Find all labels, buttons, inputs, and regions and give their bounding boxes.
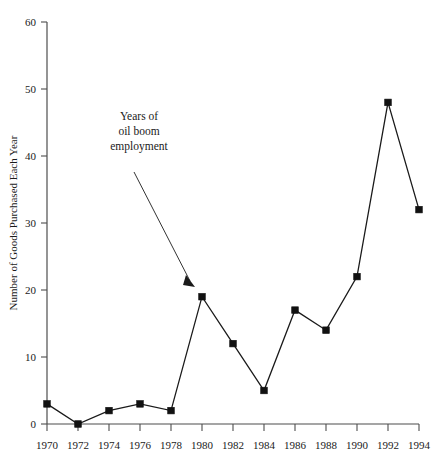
data-point-marker <box>292 307 299 314</box>
y-axis-title: Number of Goods Purchased Each Year <box>7 135 19 310</box>
x-tick-label: 1972 <box>67 439 89 451</box>
annotation-arrow-head <box>183 275 195 287</box>
x-tick-label: 1974 <box>98 439 121 451</box>
y-tick-label: 60 <box>25 16 37 28</box>
oil-boom-annotation: Years of oil boom employment <box>110 110 195 287</box>
data-point-marker <box>323 327 330 334</box>
x-tick-label: 1978 <box>160 439 183 451</box>
y-tick-label: 20 <box>25 284 37 296</box>
annotation-line-1: Years of <box>120 110 158 122</box>
x-tick-label: 1986 <box>284 439 307 451</box>
data-point-marker <box>168 407 175 414</box>
data-point-marker <box>354 273 361 280</box>
data-point-marker <box>106 407 113 414</box>
annotation-arrow-line <box>134 172 190 281</box>
data-point-marker <box>75 421 82 428</box>
x-tick-label: 1982 <box>222 439 244 451</box>
data-point-marker <box>44 401 51 408</box>
y-tick-label: 10 <box>25 351 37 363</box>
y-tick-label: 50 <box>25 83 37 95</box>
x-tick-label: 1988 <box>315 439 338 451</box>
data-point-marker <box>137 401 144 408</box>
data-point-marker <box>261 387 268 394</box>
annotation-line-2: oil boom <box>118 125 159 137</box>
data-series-markers <box>44 99 423 427</box>
data-series-line <box>47 102 419 424</box>
x-axis-tick-labels: 1970 1972 1974 1976 1978 1980 1982 1984 … <box>36 439 431 451</box>
chart-canvas: 0 10 20 30 40 50 60 Number of Goods Purc… <box>0 0 439 473</box>
data-point-marker <box>416 206 423 213</box>
y-tick-label: 40 <box>25 150 37 162</box>
x-tick-label: 1976 <box>129 439 152 451</box>
annotation-line-3: employment <box>110 140 168 153</box>
x-tick-label: 1970 <box>36 439 59 451</box>
x-tick-label: 1984 <box>253 439 276 451</box>
y-tick-label: 30 <box>25 217 37 229</box>
y-axis-ticks <box>41 22 47 424</box>
y-axis-tick-labels: 0 10 20 30 40 50 60 <box>25 16 37 430</box>
x-tick-label: 1994 <box>408 439 431 451</box>
data-point-marker <box>385 99 392 106</box>
data-point-marker <box>230 340 237 347</box>
data-point-marker <box>199 293 206 300</box>
x-tick-label: 1990 <box>346 439 369 451</box>
x-axis-ticks <box>47 424 419 431</box>
line-chart: 0 10 20 30 40 50 60 Number of Goods Purc… <box>0 0 439 473</box>
y-tick-label: 0 <box>31 418 37 430</box>
x-tick-label: 1980 <box>191 439 214 451</box>
x-tick-label: 1992 <box>377 439 399 451</box>
